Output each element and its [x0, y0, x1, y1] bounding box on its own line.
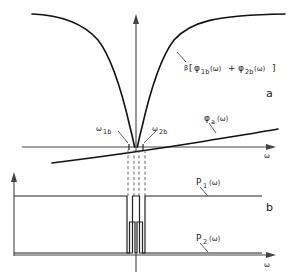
figure-svg: ω 1b ω 2b β [ φ 1b (ω) + φ 2b (ω) ]	[0, 0, 294, 277]
p1-curve	[14, 196, 262, 253]
phi-1b-base: φ	[194, 63, 200, 73]
phi-a-sub: a	[211, 118, 215, 126]
p1-curve-label: P 1 (ω)	[196, 177, 221, 190]
phi-1b-sub: 1b	[201, 68, 209, 76]
omega-1b-sub: 1b	[103, 128, 111, 136]
p2-curve-label: P 2 (ω)	[196, 233, 221, 246]
p1-sub: 1	[203, 182, 207, 190]
panel-b-horizontal-axis-arrow	[266, 252, 276, 258]
beta-sum-label-leader	[177, 52, 186, 62]
panel-b: P 1 (ω) b P 2 (ω) ω	[11, 172, 276, 272]
panel-b-vertical-axis-arrow	[11, 172, 17, 182]
beta-symbol: β	[184, 64, 188, 72]
panel-a-vertical-axis-arrow	[133, 14, 139, 24]
p1-base: P	[196, 177, 202, 187]
p2-arg: (ω)	[209, 235, 221, 243]
p2-sub: 2	[203, 238, 207, 246]
dashed-guide-lines	[128, 150, 145, 196]
beta-sum-curve-label: β [ φ 1b (ω) + φ 2b (ω) ]	[184, 63, 276, 76]
bracket-close: ]	[272, 63, 276, 73]
panel-b-label: b	[266, 201, 273, 214]
phi-1b-arg: (ω)	[210, 65, 222, 73]
figure-container: ω 1b ω 2b β [ φ 1b (ω) + φ 2b (ω) ]	[0, 0, 294, 277]
p2-base: P	[196, 233, 202, 243]
panel-a-horizontal-axis-arrow	[266, 144, 276, 150]
omega-1b-base: ω	[96, 125, 102, 133]
phi-a-arg: (ω)	[217, 115, 229, 123]
omega-1b-leader	[118, 131, 128, 143]
phi-2b-arg: (ω)	[254, 65, 266, 73]
panel-a-label: a	[266, 87, 273, 100]
p2-curve	[14, 222, 262, 253]
phi-a-base: φ	[204, 113, 210, 123]
omega-2b-sub: 2b	[159, 128, 167, 136]
panel-a-omega-axis-label: ω	[264, 152, 270, 160]
panel-a: ω 1b ω 2b β [ φ 1b (ω) + φ 2b (ω) ]	[22, 14, 285, 163]
phi-a-curve-label: φ a (ω)	[204, 113, 229, 126]
panel-b-omega-axis-label: ω	[264, 261, 270, 269]
bracket-open: [	[189, 63, 193, 73]
omega-2b-base: ω	[152, 125, 158, 133]
omega-1b-label: ω 1b	[96, 125, 111, 136]
plus-symbol: +	[228, 63, 236, 73]
p1-arg: (ω)	[209, 179, 221, 187]
omega-2b-label: ω 2b	[152, 125, 167, 136]
phi-2b-base: φ	[238, 63, 244, 73]
phi-2b-sub: 2b	[245, 68, 253, 76]
beta-sum-curve-left	[32, 14, 135, 147]
